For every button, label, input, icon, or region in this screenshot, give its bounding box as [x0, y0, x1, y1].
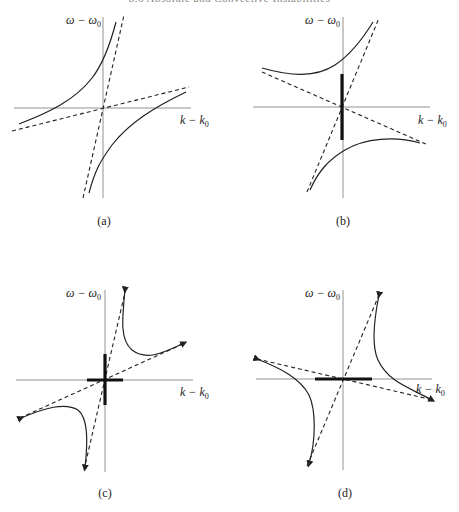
- caption-b: (b): [336, 214, 350, 228]
- asymptote-negative: [262, 72, 428, 145]
- panel-d: ω − ω0 k − k0 (d): [256, 286, 445, 500]
- figure-dispersion-diagrams: ω − ω0 k − k0 (a) ω − ω0 k − k0 (b) ω − …: [0, 0, 459, 512]
- y-axis-label: ω − ω0: [305, 13, 340, 29]
- lower-branch: [310, 139, 420, 190]
- asymptote-shallow: [12, 87, 189, 131]
- x-axis-label: k − k0: [416, 382, 445, 398]
- x-axis-label: k − k0: [180, 385, 209, 401]
- caption-c: (c): [98, 486, 111, 500]
- upper-branch: [262, 22, 373, 74]
- y-axis-label: ω − ω0: [66, 13, 101, 29]
- caption-a: (a): [97, 214, 110, 228]
- panel-c: ω − ω0 k − k0 (c): [16, 286, 209, 500]
- x-axis-label: k − k0: [180, 113, 209, 129]
- lower-branch: [21, 406, 87, 468]
- panel-b: ω − ω0 k − k0 (b): [253, 13, 447, 228]
- caption-d: (d): [338, 486, 352, 500]
- x-axis-label: k − k0: [418, 113, 447, 129]
- left-branch: [257, 359, 314, 464]
- y-axis-label: ω − ω0: [305, 286, 340, 302]
- asymptote-steep: [83, 15, 124, 198]
- upper-branch: [123, 290, 184, 355]
- y-axis-label: ω − ω0: [66, 286, 101, 302]
- panel-a: ω − ω0 k − k0 (a): [12, 13, 209, 228]
